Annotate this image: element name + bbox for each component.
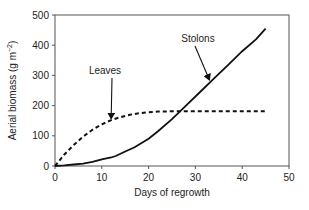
series-leaves	[55, 111, 266, 166]
y-tick-label: 300	[32, 70, 49, 81]
y-tick-label: 0	[43, 161, 49, 172]
annotation-arrow-icon	[195, 46, 209, 80]
x-tick-label: 30	[190, 172, 202, 183]
annotations: LeavesStolons	[89, 33, 215, 119]
y-tick-label: 500	[32, 10, 49, 21]
y-tick-label: 100	[32, 130, 49, 141]
y-tick-label: 400	[32, 40, 49, 51]
series-stolons	[55, 29, 266, 166]
y-axis-ticks: 0100200300400500	[32, 10, 55, 172]
x-tick-label: 10	[96, 172, 108, 183]
annotation-leaves: Leaves	[89, 65, 121, 76]
chart: 0100200300400500 01020304050 LeavesStolo…	[0, 0, 309, 210]
x-tick-label: 50	[283, 172, 295, 183]
x-tick-label: 40	[237, 172, 249, 183]
x-tick-label: 20	[143, 172, 155, 183]
y-tick-label: 200	[32, 100, 49, 111]
series-lines	[55, 29, 266, 166]
x-tick-label: 0	[52, 172, 58, 183]
annotation-arrow-icon	[111, 78, 112, 119]
annotation-stolons: Stolons	[181, 33, 214, 44]
plot-area: 0100200300400500 01020304050 LeavesStolo…	[32, 10, 295, 184]
x-axis-label: Days of regrowth	[134, 187, 210, 198]
x-axis-ticks: 01020304050	[52, 166, 295, 183]
y-axis-label: Aerial biomass (g m−2)	[6, 41, 18, 141]
plot-frame	[55, 15, 289, 166]
